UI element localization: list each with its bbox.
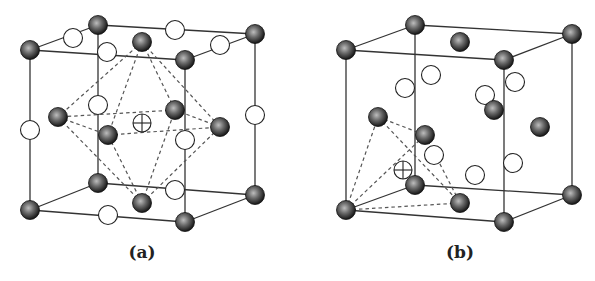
dark-atom-icon: [21, 41, 40, 60]
white-atom-icon: [466, 166, 485, 185]
interstitial-site-icon: [133, 114, 151, 132]
white-atom-icon: [21, 121, 40, 140]
white-atom-icon: [98, 43, 117, 62]
cube-edge: [346, 210, 504, 222]
octahedron-edge: [108, 127, 220, 135]
white-atom-icon: [246, 106, 265, 125]
white-atom-icon: [211, 36, 230, 55]
dark-atom-icon: [89, 16, 108, 35]
white-atom-icon: [166, 21, 185, 40]
dark-atom-icon: [89, 174, 108, 193]
dark-atom-icon: [451, 194, 470, 213]
panel-b-tetrahedral: (b): [337, 16, 582, 263]
cube-edge: [504, 34, 572, 60]
dark-atom-icon: [246, 186, 265, 205]
cube-edge: [185, 195, 255, 222]
dark-atom-icon: [246, 25, 265, 44]
white-atom-icon: [425, 146, 444, 165]
cube-edge: [346, 50, 504, 60]
octahedron-edge: [108, 135, 142, 203]
dark-atom-icon: [369, 108, 388, 127]
white-atom-icon: [64, 29, 83, 48]
dark-atom-icon: [406, 176, 425, 195]
white-atom-icon: [166, 181, 185, 200]
dark-atom-icon: [531, 118, 550, 137]
crystal-structure-diagram: (a) (b): [0, 0, 595, 281]
panel-label: (b): [446, 242, 474, 262]
white-atom-icon: [396, 79, 415, 98]
tetrahedron-edge: [346, 117, 378, 210]
dark-atom-icon: [563, 25, 582, 44]
cube-edge: [346, 25, 415, 50]
panel-label: (a): [128, 242, 155, 262]
dark-atom-icon: [416, 126, 435, 145]
dark-atom-icon: [211, 118, 230, 137]
dark-atom-icon: [485, 101, 504, 120]
dark-atom-icon: [337, 201, 356, 220]
dark-atom-icon: [406, 16, 425, 35]
dark-atom-icon: [133, 33, 152, 52]
dark-atom-icon: [563, 186, 582, 205]
dark-atom-icon: [176, 51, 195, 70]
tetrahedron-edge: [425, 135, 460, 203]
dark-atom-icon: [99, 126, 118, 145]
white-atom-icon: [89, 96, 108, 115]
white-atom-icon: [422, 66, 441, 85]
dark-atom-icon: [176, 213, 195, 232]
dark-atom-icon: [21, 201, 40, 220]
panel-a-octahedral: (a): [21, 16, 265, 263]
white-atom-icon: [176, 131, 195, 150]
cube-edge: [415, 25, 572, 34]
octahedron-edge: [142, 42, 175, 110]
cube-edge: [504, 195, 572, 222]
tetrahedron-edge: [346, 135, 425, 210]
dark-atom-icon: [495, 51, 514, 70]
dark-atom-icon: [337, 41, 356, 60]
cube-edge: [30, 183, 98, 210]
white-atom-icon: [504, 154, 523, 173]
cube-edge: [415, 185, 572, 195]
dark-atom-icon: [49, 108, 68, 127]
dark-atom-icon: [451, 33, 470, 52]
atoms: [337, 16, 582, 232]
dark-atom-icon: [495, 213, 514, 232]
dark-atom-icon: [166, 101, 185, 120]
white-atom-icon: [506, 73, 525, 92]
white-atom-icon: [99, 206, 118, 225]
interstitial-site-icon: [394, 161, 412, 179]
dark-atom-icon: [133, 194, 152, 213]
